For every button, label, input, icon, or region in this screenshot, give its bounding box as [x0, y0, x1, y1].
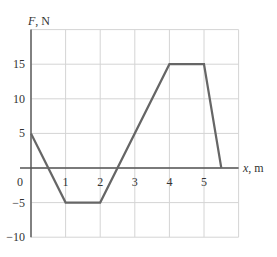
y-tick-label: 10	[13, 92, 25, 106]
x-axis-title: x, m	[242, 161, 264, 175]
y-tick-label: −10	[6, 230, 25, 244]
y-axis-unit: , N	[35, 14, 50, 28]
y-tick-label: −5	[12, 196, 25, 210]
x-tick-labels: 12345	[63, 175, 207, 189]
x-tick-label: 3	[132, 175, 138, 189]
y-tick-label: 5	[19, 126, 25, 140]
origin-label: 0	[17, 175, 23, 189]
x-tick-label: 4	[166, 175, 172, 189]
force-vs-position-chart: 12345 15105−5−10 0 F, N x, m	[0, 0, 277, 257]
x-tick-label: 2	[97, 175, 103, 189]
x-tick-label: 1	[63, 175, 69, 189]
y-tick-labels: 15105−5−10	[6, 57, 25, 244]
x-tick-label: 5	[201, 175, 207, 189]
x-axis-unit: , m	[248, 161, 264, 175]
y-tick-label: 15	[13, 57, 25, 71]
y-axis-title: F, N	[27, 14, 50, 28]
